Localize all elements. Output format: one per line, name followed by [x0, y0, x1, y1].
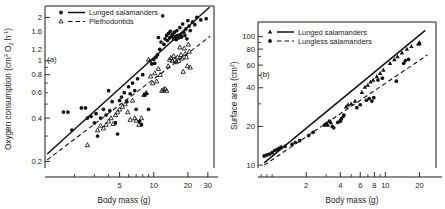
data-point	[153, 61, 157, 65]
data-point	[283, 145, 287, 149]
data-point	[180, 35, 184, 39]
data-point	[403, 59, 407, 63]
data-point	[62, 110, 66, 114]
y-tick-label: 1.2	[31, 45, 42, 54]
data-point	[175, 29, 179, 33]
data-point	[349, 101, 353, 105]
data-point	[99, 116, 103, 120]
data-point	[195, 16, 199, 20]
data-point	[187, 49, 191, 53]
data-point	[187, 24, 191, 28]
y-tick-label: 0.6	[31, 88, 42, 97]
data-point	[156, 66, 160, 70]
data-point	[182, 46, 186, 50]
data-point	[102, 107, 106, 111]
panel-b: 246810201020406080100 (b) Lunged salaman…	[222, 0, 445, 209]
data-point	[96, 134, 100, 138]
x-tick-label: 20	[184, 181, 192, 190]
panel-a-legend: Lunged salamanders Plethodontids	[59, 8, 158, 26]
y-tick-label: 0.4	[31, 114, 42, 123]
data-point	[89, 115, 93, 119]
x-tick-label: 10	[149, 181, 157, 190]
panel-a-plot-frame	[45, 6, 218, 177]
x-tick-label: 2	[304, 181, 308, 190]
data-point	[311, 130, 315, 134]
panel-b-label: (b)	[260, 70, 270, 79]
data-point	[355, 106, 359, 110]
y-tick-label: 20	[247, 122, 255, 131]
data-point	[98, 123, 102, 127]
legend-label-lunged: Lunged salamanders	[298, 28, 367, 37]
data-point	[66, 110, 70, 114]
data-point	[108, 109, 112, 113]
panel-b-tick-labels: 246810201020406080100	[242, 32, 423, 190]
y-tick-label: 60	[247, 61, 255, 70]
panel-a-ticks	[45, 17, 208, 177]
x-tick-label: 8	[372, 181, 376, 190]
data-point	[372, 96, 376, 100]
data-point	[94, 112, 98, 116]
y-tick-label: 80	[247, 45, 255, 54]
data-point	[159, 40, 163, 44]
data-point	[110, 100, 114, 104]
x-tick-label: 4	[338, 181, 342, 190]
data-point	[193, 23, 197, 27]
panel-b-fit-lines	[264, 30, 427, 165]
data-point	[186, 19, 190, 23]
data-point	[367, 97, 371, 101]
data-point	[128, 117, 132, 121]
y-tick-label: 10	[247, 161, 255, 170]
data-point	[181, 69, 185, 73]
data-point	[116, 132, 120, 136]
data-point	[332, 126, 336, 130]
data-point	[147, 107, 151, 111]
data-point	[141, 73, 145, 77]
data-point	[70, 128, 74, 132]
data-point	[409, 44, 413, 48]
data-point	[183, 34, 187, 38]
data-point	[134, 107, 138, 111]
data-point	[340, 117, 344, 121]
panel-b-svg: 246810201020406080100 (b) Lunged salaman…	[222, 0, 445, 209]
data-point	[279, 145, 283, 149]
panel-b-x-axis-title: Body mass (g)	[326, 196, 379, 205]
data-point	[293, 141, 297, 145]
data-point	[154, 79, 158, 83]
y-tick-label: 2	[38, 13, 42, 22]
data-point	[126, 110, 130, 114]
panel-a-x-axis-title: Body mass (g)	[98, 196, 151, 205]
y-tick-label: 1	[38, 56, 42, 65]
data-point	[418, 42, 422, 46]
legend-marker-filled-circle	[59, 11, 63, 15]
data-point	[178, 45, 182, 49]
legend-label-lungless: Lungless salamanders	[298, 37, 372, 46]
data-point	[185, 37, 189, 41]
legend-marker-filled-circle	[268, 39, 272, 43]
data-point	[324, 122, 328, 126]
data-point	[358, 103, 362, 107]
data-point	[122, 91, 126, 95]
data-point	[133, 89, 137, 93]
data-point	[204, 17, 208, 21]
data-point	[130, 98, 134, 102]
legend-marker-filled-triangle	[268, 30, 272, 34]
data-point	[139, 116, 143, 120]
data-point	[394, 79, 398, 83]
data-point	[107, 89, 111, 93]
legend-label-lunged: Lunged salamanders	[89, 8, 158, 17]
y-tick-label: 1.6	[31, 27, 42, 36]
x-tick-label: 30	[204, 181, 212, 190]
x-tick-label: 6	[358, 181, 362, 190]
x-tick-label: 20	[415, 181, 423, 190]
data-point	[153, 71, 157, 75]
data-point	[79, 106, 83, 110]
panel-b-y-axis-title: Surface area (cm2)	[229, 61, 239, 130]
data-point	[188, 29, 192, 33]
data-point	[184, 27, 188, 31]
x-tick-label: 10	[381, 181, 389, 190]
data-point	[86, 116, 90, 120]
data-point	[136, 77, 140, 81]
data-point	[149, 74, 153, 78]
data-point	[298, 139, 302, 143]
panel-a-data-points	[62, 14, 208, 147]
